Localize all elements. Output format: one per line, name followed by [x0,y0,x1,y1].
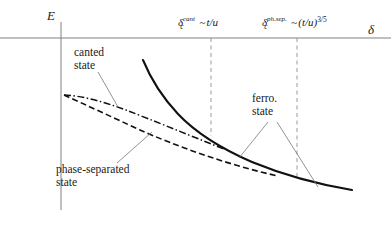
ferro-state-leader-line-left [239,122,268,158]
figure-canvas [0,0,391,225]
phase-separated-state-label-line1: phase-separated [56,163,129,176]
phase-separated-state-leader-line [117,132,152,163]
canted-state-label-line2: state [74,59,104,72]
canted-threshold-superscript: cant [183,15,195,23]
canted-state-label-line1: canted [74,46,104,59]
ferro-state-label-line1: ferro. [252,92,277,105]
y-axis-label: E [47,9,55,24]
x-axis-label: δ [368,23,374,38]
canted-state-curve [64,95,224,149]
phase-separated-state-label: phase-separated state [56,163,129,189]
canted-threshold-label: δccant~t/u [178,16,218,29]
canted-threshold-expression: t/u [206,16,218,28]
phase-separation-threshold-exponent: 3/5 [317,15,327,24]
energy-doping-figure: E δ δccant~t/u δcph.sep.~(t/u)3/5 canted… [0,0,391,225]
ferro-state-label: ferro. state [252,92,277,118]
ferro-state-label-line2: state [252,105,277,118]
phase-separation-threshold-label: δcph.sep.~(t/u)3/5 [262,16,327,29]
canted-state-label: canted state [74,46,104,72]
phase-separation-threshold-superscript: ph.sep. [267,15,287,23]
phase-separated-state-label-line2: state [56,176,129,189]
ferro-state-curve [143,60,352,190]
phase-separation-threshold-expression: (t/u) [298,16,317,28]
